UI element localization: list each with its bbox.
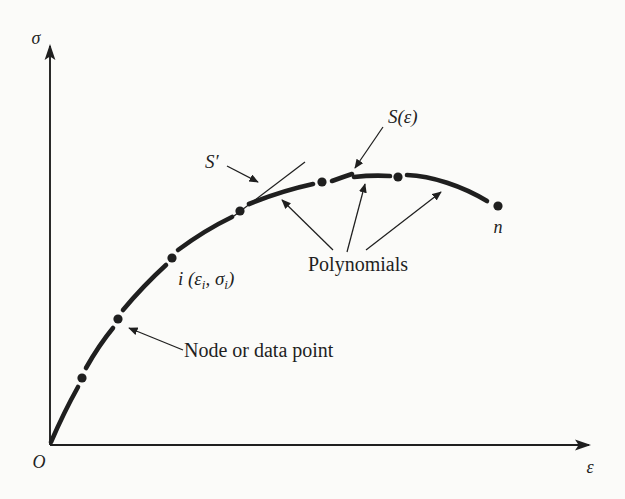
curve-segment xyxy=(354,176,390,177)
data-point-dot xyxy=(493,201,502,210)
curve-segment xyxy=(123,265,166,310)
node-coordinate-label: i (εi, σi) xyxy=(178,268,234,292)
curve-segment xyxy=(51,387,78,442)
stress-strain-diagram: σ ε O S′ S(ε) i (εi, σi) Node or data po… xyxy=(0,0,625,499)
polynomials-label: Polynomials xyxy=(308,253,408,276)
curve-segment xyxy=(86,328,113,368)
curve-segment xyxy=(332,174,352,181)
origin-label: O xyxy=(33,452,46,472)
data-point-dot xyxy=(77,373,86,382)
stress-strain-curve xyxy=(51,174,487,442)
curve-segment xyxy=(407,175,487,201)
last-node-label: n xyxy=(494,217,503,237)
data-point-dot xyxy=(113,314,122,323)
spline-arrow xyxy=(355,127,383,168)
node-annotation-arrow xyxy=(129,328,183,350)
data-point-dot xyxy=(235,206,244,215)
s-prime-arrow xyxy=(227,166,258,182)
polynomial-arrow-middle xyxy=(347,184,365,252)
spline-label: S(ε) xyxy=(388,106,418,128)
node-annotation-label: Node or data point xyxy=(184,339,334,362)
epsilon-axis-label: ε xyxy=(586,457,594,477)
sigma-axis-label: σ xyxy=(32,28,42,48)
polynomial-arrow-left xyxy=(282,200,333,250)
figure-canvas: σ ε O S′ S(ε) i (εi, σi) Node or data po… xyxy=(0,0,625,499)
curve-segment xyxy=(249,184,313,204)
data-point-dot xyxy=(393,172,402,181)
s-prime-label: S′ xyxy=(205,151,220,172)
data-point-dot xyxy=(317,177,326,186)
polynomial-arrow-right xyxy=(366,192,441,250)
curve-segment xyxy=(178,217,232,250)
data-point-dot xyxy=(167,253,176,262)
